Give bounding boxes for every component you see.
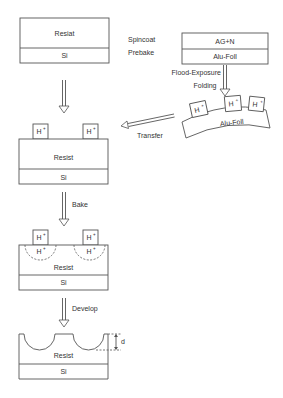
baked-wafer: H + H + H + H + Resist Si bbox=[19, 230, 108, 290]
svg-text:H: H bbox=[36, 248, 41, 255]
alu-foil-layer-label: Alu-Foll bbox=[213, 53, 237, 60]
depth-label: d bbox=[121, 338, 125, 345]
initial-wafer-stack: Resiat Si bbox=[20, 18, 109, 63]
process-diagram: Resiat Si Spincoat Prebake AG+N Alu-Foll… bbox=[0, 0, 283, 398]
transfer-arrow-icon bbox=[121, 114, 175, 129]
proton-box: H + bbox=[190, 101, 209, 118]
svg-text:H: H bbox=[86, 234, 91, 241]
svg-text:+: + bbox=[43, 126, 46, 131]
curved-foil: Alu-Foll H + H + H + bbox=[182, 95, 270, 138]
transfer-label: Transfer bbox=[137, 132, 163, 139]
develop-arrow-icon bbox=[59, 298, 69, 327]
foil-stack: AG+N Alu-Foll bbox=[182, 33, 268, 64]
wafer-with-protons: H + H + Resist Si bbox=[19, 124, 108, 184]
resist-layer-label: Resist bbox=[54, 264, 74, 271]
svg-text:+: + bbox=[43, 232, 46, 237]
proton-box: H + bbox=[83, 124, 98, 139]
svg-text:H: H bbox=[86, 128, 91, 135]
proton-box: H + bbox=[33, 230, 48, 245]
svg-text:+: + bbox=[93, 126, 96, 131]
svg-text:+: + bbox=[93, 232, 96, 237]
si-layer-label: Si bbox=[60, 368, 67, 375]
flood-exposure-arrow-icon bbox=[220, 65, 230, 96]
ag-n-layer-label: AG+N bbox=[215, 38, 234, 45]
folding-label: Folding bbox=[194, 82, 217, 90]
down-arrow-icon bbox=[59, 80, 69, 113]
si-layer-label: Si bbox=[61, 52, 68, 59]
resist-layer-label: Resist bbox=[54, 154, 74, 161]
proton-box: H + bbox=[248, 96, 264, 111]
spincoat-label: Spincoat bbox=[128, 36, 155, 44]
svg-text:H: H bbox=[252, 101, 258, 108]
svg-text:H: H bbox=[36, 128, 41, 135]
proton-box: H + bbox=[33, 124, 48, 139]
bake-label: Bake bbox=[72, 201, 88, 208]
svg-text:H: H bbox=[228, 100, 234, 107]
proton-box: H + bbox=[224, 95, 241, 111]
curved-foil-label: Alu-Foll bbox=[220, 118, 245, 127]
resist-layer-label: Resiat bbox=[55, 30, 75, 37]
svg-text:H: H bbox=[86, 248, 91, 255]
proton-box: H + bbox=[83, 230, 98, 245]
developed-wafer: Resist Si d bbox=[19, 334, 125, 379]
develop-label: Develop bbox=[72, 305, 98, 313]
bake-arrow-icon bbox=[59, 192, 69, 226]
prebake-label: Prebake bbox=[128, 49, 154, 56]
flood-exposure-label: Flood-Exposure bbox=[172, 69, 222, 77]
svg-text:H: H bbox=[36, 234, 41, 241]
svg-text:+: + bbox=[93, 246, 96, 251]
resist-layer-label: Resist bbox=[54, 352, 74, 359]
si-layer-label: Si bbox=[60, 279, 67, 286]
svg-text:+: + bbox=[43, 246, 46, 251]
si-layer-label: Si bbox=[60, 174, 67, 181]
